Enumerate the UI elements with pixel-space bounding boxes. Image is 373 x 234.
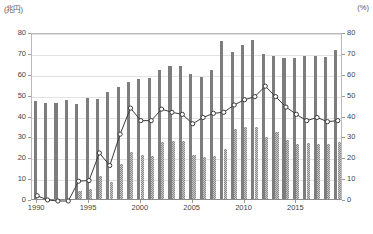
y-axis-left-tick-label: 20 bbox=[4, 154, 26, 162]
line-marker bbox=[149, 119, 153, 123]
y-axis-right-tick-label: 10 bbox=[347, 175, 369, 183]
y-axis-left-tick-label: 0 bbox=[4, 196, 26, 204]
y-axis-left-unit-label: (兆円) bbox=[4, 3, 23, 14]
line-marker bbox=[305, 119, 309, 123]
y-axis-left-tick-mark bbox=[28, 117, 31, 118]
line-marker bbox=[232, 103, 236, 107]
y-axis-left-tick-mark bbox=[28, 200, 31, 201]
x-axis-tick-mark bbox=[88, 200, 89, 203]
y-axis-left-tick-label: 50 bbox=[4, 92, 26, 100]
y-axis-left-tick-mark bbox=[28, 158, 31, 159]
y-axis-left-tick-mark bbox=[28, 33, 31, 34]
y-axis-right-tick-label: 20 bbox=[347, 154, 369, 162]
x-axis-tick-label: 2005 bbox=[177, 204, 207, 212]
x-axis-tick-mark bbox=[295, 200, 296, 203]
y-axis-right-tick-label: 0 bbox=[347, 196, 369, 204]
y-axis-right-tick-mark bbox=[342, 96, 345, 97]
y-axis-right-tick-mark bbox=[342, 200, 345, 201]
y-axis-right-tick-label: 70 bbox=[347, 50, 369, 58]
line-marker bbox=[97, 151, 101, 155]
x-axis-tick-mark bbox=[192, 200, 193, 203]
y-axis-right-tick-label: 40 bbox=[347, 113, 369, 121]
chart-container: (兆円) (%) 01020304050607080 0102030405060… bbox=[0, 0, 373, 234]
line-marker bbox=[242, 98, 246, 102]
line-series-layer bbox=[32, 34, 343, 201]
x-axis-tick-label: 2000 bbox=[125, 204, 155, 212]
line-marker bbox=[118, 132, 122, 136]
y-axis-right-unit-label: (%) bbox=[357, 3, 369, 12]
line-marker bbox=[336, 119, 340, 123]
line-marker bbox=[201, 115, 205, 119]
y-axis-right-tick-mark bbox=[342, 117, 345, 118]
y-axis-left-tick-label: 10 bbox=[4, 175, 26, 183]
y-axis-right-tick-mark bbox=[342, 33, 345, 34]
y-axis-left-tick-mark bbox=[28, 96, 31, 97]
line-marker bbox=[284, 105, 288, 109]
line-marker bbox=[128, 106, 132, 110]
line-marker bbox=[274, 95, 278, 99]
y-axis-left-tick-label: 60 bbox=[4, 71, 26, 79]
y-axis-right-tick-mark bbox=[342, 158, 345, 159]
line-marker bbox=[191, 122, 195, 126]
x-axis-tick-mark bbox=[140, 200, 141, 203]
x-axis-tick-label: 1990 bbox=[21, 204, 51, 212]
y-axis-left-tick-label: 70 bbox=[4, 50, 26, 58]
y-axis-left-tick-label: 30 bbox=[4, 133, 26, 141]
y-axis-right-tick-mark bbox=[342, 54, 345, 55]
line-marker bbox=[294, 112, 298, 116]
y-axis-left-tick-label: 80 bbox=[4, 29, 26, 37]
line-marker bbox=[139, 119, 143, 123]
y-axis-left-tick-mark bbox=[28, 75, 31, 76]
y-axis-left-tick-mark bbox=[28, 54, 31, 55]
y-axis-right-tick-mark bbox=[342, 179, 345, 180]
y-axis-right-tick-mark bbox=[342, 137, 345, 138]
line-marker bbox=[253, 95, 257, 99]
plot-area bbox=[31, 33, 342, 200]
y-axis-left-tick-label: 40 bbox=[4, 113, 26, 121]
y-axis-left-tick-mark bbox=[28, 137, 31, 138]
line-marker bbox=[222, 110, 226, 114]
line-marker bbox=[87, 178, 91, 182]
line-marker bbox=[77, 179, 81, 183]
line-marker bbox=[66, 199, 70, 203]
y-axis-right-tick-label: 50 bbox=[347, 92, 369, 100]
y-axis-right-tick-label: 30 bbox=[347, 133, 369, 141]
line-marker bbox=[170, 110, 174, 114]
x-axis-tick-label: 2015 bbox=[280, 204, 310, 212]
y-axis-right-tick-mark bbox=[342, 75, 345, 76]
line-marker bbox=[56, 199, 60, 203]
x-axis-tick-label: 1995 bbox=[73, 204, 103, 212]
line-marker bbox=[325, 120, 329, 124]
line-marker bbox=[315, 115, 319, 119]
line-marker bbox=[108, 163, 112, 167]
x-axis-tick-mark bbox=[244, 200, 245, 203]
x-axis-tick-mark bbox=[36, 200, 37, 203]
line-marker bbox=[263, 84, 267, 88]
y-axis-right-tick-label: 60 bbox=[347, 71, 369, 79]
line-marker bbox=[211, 111, 215, 115]
line-marker bbox=[45, 198, 49, 202]
y-axis-left-tick-mark bbox=[28, 179, 31, 180]
line-marker bbox=[180, 112, 184, 116]
x-axis-tick-label: 2010 bbox=[229, 204, 259, 212]
line-series-path bbox=[37, 86, 338, 201]
y-axis-right-tick-label: 80 bbox=[347, 29, 369, 37]
line-marker bbox=[35, 194, 39, 198]
line-marker bbox=[159, 107, 163, 111]
